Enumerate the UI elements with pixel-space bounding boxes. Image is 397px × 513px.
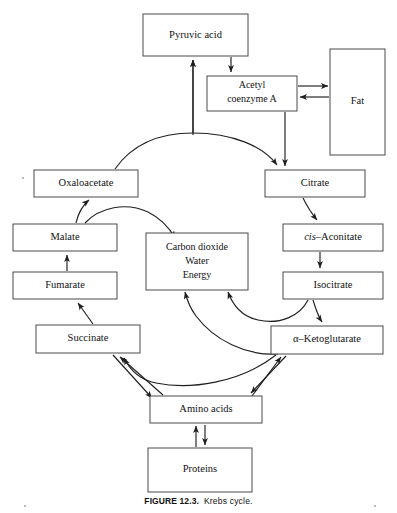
figure-caption: FIGURE 12.3.Krebs cycle. <box>0 496 397 506</box>
node-amino-acids-label: Amino acids <box>179 403 232 414</box>
figure-title: Krebs cycle. <box>204 496 253 506</box>
node-alpha-ketoglutarate-label: α–Ketoglutarate <box>293 333 361 344</box>
node-acetyl-coenzyme-a-label-line1: Acetyl <box>239 79 266 90</box>
node-group: Pyruvic acid Acetyl coenzyme A Fat Oxalo… <box>13 14 385 492</box>
node-pyruvic-acid-label: Pyruvic acid <box>169 29 223 40</box>
edge-malate-to-oxaloacetate <box>76 200 89 223</box>
node-fumarate-label: Fumarate <box>45 279 85 290</box>
node-malate-label: Malate <box>50 231 79 242</box>
node-oxaloacetate-label: Oxaloacetate <box>59 177 114 188</box>
node-citrate-label: Citrate <box>301 177 330 188</box>
edge-aminoacids-to-succinate <box>120 357 163 395</box>
krebs-cycle-figure: Pyruvic acid Acetyl coenzyme A Fat Oxalo… <box>0 0 397 513</box>
krebs-cycle-diagram: Pyruvic acid Acetyl coenzyme A Fat Oxalo… <box>0 0 397 513</box>
edge-succinate-to-aminoacids <box>113 355 152 398</box>
node-isocitrate-label: Isocitrate <box>313 279 352 290</box>
edge-isocitrate-to-ketoglutarate <box>313 300 322 322</box>
figure-number: FIGURE 12.3. <box>144 496 199 506</box>
node-acetyl-coenzyme-a-label-line2: coenzyme A <box>227 93 277 104</box>
node-proteins-label: Proteins <box>183 463 217 474</box>
edge-ketoglutarate-to-aminoacids <box>251 356 286 393</box>
edge-oxaloacetate-arc-to-citrate <box>115 133 277 169</box>
node-cis-aconitate-label-italic: cis <box>304 231 316 242</box>
edge-citrate-to-cisaconitate <box>303 198 317 220</box>
edge-succinate-to-fumarate <box>78 303 93 324</box>
scan-speck <box>22 177 24 179</box>
node-products-label-line1: Carbon dioxide <box>166 241 228 252</box>
node-fat-label: Fat <box>351 95 365 106</box>
node-products-label-line3: Energy <box>183 269 212 280</box>
edge-ketoglutarate-to-products <box>185 292 278 354</box>
node-cis-aconitate-label: cis–Aconitate <box>304 231 362 242</box>
node-cis-aconitate-label-rest: –Aconitate <box>315 231 362 242</box>
node-products-label-line2: Water <box>185 255 209 266</box>
node-succinate-label: Succinate <box>68 332 109 343</box>
